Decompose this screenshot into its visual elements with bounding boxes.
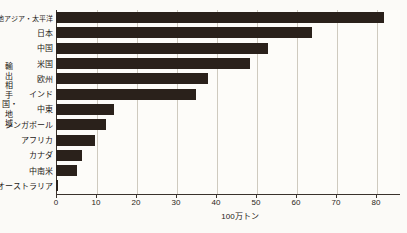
x-axis-tick-label: 40 xyxy=(212,198,221,207)
category-label: インド xyxy=(29,89,53,100)
x-axis-unit-label: 100万トン xyxy=(221,210,258,221)
bar xyxy=(56,73,208,84)
x-axis-tick-label: 20 xyxy=(132,198,141,207)
category-label: 中東 xyxy=(37,104,53,115)
chart-screenshot: 輸出相手国・地域 その他アジア・太平洋日本中国米国欧州インド中東シンガポールアフ… xyxy=(0,0,407,233)
category-label: シンガポール xyxy=(5,119,53,130)
bar xyxy=(56,12,384,23)
x-axis-tick-label: 50 xyxy=(252,198,261,207)
bar xyxy=(56,27,312,38)
bar xyxy=(56,135,95,146)
bar xyxy=(56,89,196,100)
bar xyxy=(56,43,268,54)
gridline xyxy=(377,10,378,194)
category-label: その他アジア・太平洋 xyxy=(0,12,53,23)
x-axis-tick-label: 10 xyxy=(92,198,101,207)
x-axis-tick-label: 30 xyxy=(172,198,181,207)
x-axis-tick-label: 60 xyxy=(292,198,301,207)
bar xyxy=(56,58,250,69)
category-label: オーストラリア xyxy=(0,180,53,191)
gridline xyxy=(337,10,338,194)
bar xyxy=(56,150,82,161)
category-label: 米国 xyxy=(37,58,53,69)
x-axis-tick-label: 0 xyxy=(54,198,58,207)
category-label: 日本 xyxy=(37,27,53,38)
x-axis-tick-label: 80 xyxy=(372,198,381,207)
bar xyxy=(56,180,58,191)
category-label: 欧州 xyxy=(37,73,53,84)
bar xyxy=(56,119,106,130)
x-axis-line xyxy=(56,194,400,195)
category-label: アフリカ xyxy=(21,135,53,146)
x-axis-tick-label: 70 xyxy=(332,198,341,207)
bar xyxy=(56,165,77,176)
category-label: カナダ xyxy=(29,150,53,161)
bar xyxy=(56,104,114,115)
category-label: 中国 xyxy=(37,43,53,54)
category-label: 中南米 xyxy=(29,165,53,176)
